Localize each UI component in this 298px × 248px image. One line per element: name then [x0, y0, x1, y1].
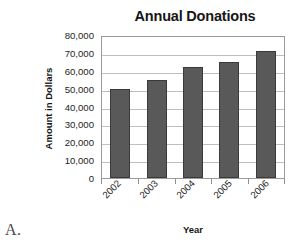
y-axis-tick-label: 80,000 [48, 31, 94, 41]
y-axis-tick-label: 50,000 [48, 85, 94, 95]
x-axis-tick-mark [138, 179, 139, 184]
bar[interactable] [147, 80, 167, 178]
x-axis-tick-labels: 20022003200420052006 [101, 185, 285, 223]
bar-slot [175, 37, 211, 178]
x-axis-tick-mark [175, 179, 176, 184]
y-axis-tick-label: 20,000 [48, 138, 94, 148]
bar[interactable] [219, 62, 239, 178]
y-axis-tick-label: 70,000 [48, 49, 94, 59]
bar[interactable] [110, 89, 130, 178]
x-axis-tick-mark [284, 179, 285, 184]
y-axis-tick-label: 0 [48, 174, 94, 184]
chart-title: Annual Donations [95, 8, 295, 24]
bar-slot [248, 37, 284, 178]
y-axis-tick-label: 40,000 [48, 103, 94, 113]
x-axis-tick-mark [248, 179, 249, 184]
y-axis-tick-labels: 80,00070,00060,00050,00040,00030,00020,0… [44, 0, 94, 248]
bar-slot [211, 37, 247, 178]
bar[interactable] [183, 67, 203, 178]
bar-series [102, 37, 284, 178]
y-axis-tick-label: 10,000 [48, 156, 94, 166]
chart-figure: Annual Donations Amount in Dollars 80,00… [0, 0, 298, 248]
x-axis-tick-mark [101, 179, 102, 184]
bar-slot [138, 37, 174, 178]
figure-letter: A. [5, 221, 22, 239]
y-axis-tick-label: 60,000 [48, 67, 94, 77]
plot-area [101, 36, 285, 179]
bar[interactable] [256, 51, 276, 178]
x-axis-tick-mark [211, 179, 212, 184]
bar-slot [102, 37, 138, 178]
y-axis-tick-label: 30,000 [48, 120, 94, 130]
x-axis-title: Year [101, 224, 285, 235]
